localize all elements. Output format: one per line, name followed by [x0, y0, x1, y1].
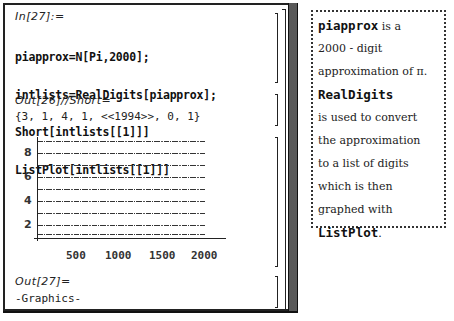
annotation-keyword: ListPlot [318, 225, 378, 240]
vertical-scrollbar[interactable] [288, 3, 298, 313]
list-plot: 8 6 4 2 500 1000 1500 2000 [19, 137, 229, 242]
y-tick-label: 8 [24, 146, 32, 159]
digit-band-7 [38, 165, 206, 166]
y-tick-label: 4 [24, 194, 32, 207]
digit-band-6 [38, 177, 206, 178]
annotation-line: to a list of digits [318, 152, 440, 175]
annotation-box: piapprox is a 2000 - digit approximation… [311, 10, 446, 228]
x-axis [34, 238, 226, 239]
x-tick-label: 1000 [105, 249, 132, 262]
cell-bracket-short-output[interactable] [275, 94, 278, 126]
output-cell-label-short: Out[26]//Short= [15, 94, 111, 107]
annotation-line: the approximation [318, 129, 440, 152]
annotation-keyword: piapprox [318, 18, 378, 33]
annotation-keyword: RealDigits [318, 87, 393, 102]
x-tick-label: 2000 [191, 249, 218, 262]
x-tick-label: 500 [66, 249, 86, 262]
annotation-line: ListPlot. [318, 221, 440, 244]
output-cell-label-graphics: Out[27]= [15, 275, 71, 288]
code-line: piapprox=N[Pi,2000]; [15, 51, 217, 64]
digit-band-3 [38, 213, 206, 214]
short-output: {3, 1, 4, 1, <<1994>>, 0, 1} [15, 110, 200, 123]
cell-bracket-plot[interactable] [275, 137, 278, 267]
digit-band-8 [38, 153, 206, 154]
notebook-window: In[27]:= piapprox=N[Pi,2000]; intlists=R… [3, 3, 288, 311]
window-bottom-edge [3, 311, 298, 313]
annotation-line: piapprox is a [318, 14, 440, 37]
cell-bracket-graphics-output[interactable] [275, 276, 278, 308]
group-bracket[interactable] [282, 9, 286, 311]
digit-band-2 [38, 225, 206, 226]
graphics-output: -Graphics- [15, 292, 81, 305]
annotation-line: which is then [318, 175, 440, 198]
digit-band-9 [38, 141, 206, 142]
annotation-line: approximation of π. [318, 60, 440, 83]
cell-bracket-input[interactable] [275, 13, 278, 83]
y-tick-label: 2 [24, 218, 32, 231]
y-tick-label: 6 [24, 170, 32, 183]
annotation-line: graphed with [318, 198, 440, 221]
digit-band-1 [38, 234, 206, 235]
annotation-line: is used to convert [318, 106, 440, 129]
digit-band-5 [38, 189, 206, 190]
input-cell-label: In[27]:= [15, 10, 65, 23]
annotation-line: RealDigits [318, 83, 440, 106]
annotation-line: 2000 - digit [318, 37, 440, 60]
digit-band-4 [38, 201, 206, 202]
x-tick-label: 1500 [149, 249, 176, 262]
